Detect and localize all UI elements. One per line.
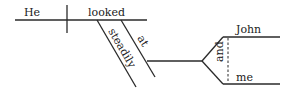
subject-word: He (24, 6, 40, 19)
verb-word: looked (88, 6, 125, 19)
object-1-word: John (235, 23, 261, 36)
fork-lower-branch (202, 61, 223, 84)
sentence-diagram: He looked steadily at and John me (0, 0, 289, 91)
object-2-word: me (236, 71, 253, 84)
conjunction-word: and (213, 41, 226, 62)
diagram-canvas: He looked steadily at and John me (0, 0, 289, 91)
